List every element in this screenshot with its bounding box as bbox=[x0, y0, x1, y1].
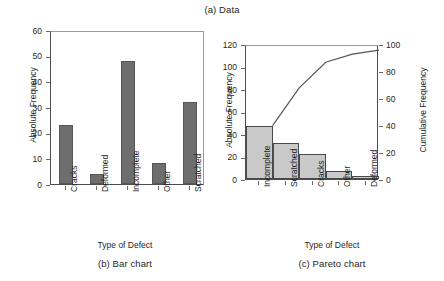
x-tick bbox=[258, 181, 259, 185]
bar-chart-caption: (b) Bar chart bbox=[30, 258, 220, 269]
y-tick bbox=[46, 108, 50, 109]
y-tick-label: 100 bbox=[209, 62, 237, 72]
x-tick-label-cracks: Cracks bbox=[69, 166, 79, 192]
x-tick-label-incomplete: Incomplete bbox=[131, 150, 141, 192]
x-tick-label-deformed: Deformed bbox=[100, 155, 110, 192]
y-tick-right bbox=[379, 180, 383, 181]
y-tick-label: 80 bbox=[209, 85, 237, 95]
x-tick-label-other: Other bbox=[342, 166, 352, 187]
y-tick bbox=[241, 68, 245, 69]
y-tick-label: 30 bbox=[14, 103, 42, 113]
y-tick-label: 120 bbox=[209, 40, 237, 50]
y-tick bbox=[46, 159, 50, 160]
x-tick-label-cracks: Cracks bbox=[316, 161, 326, 187]
y-tick-label: 0 bbox=[209, 175, 237, 185]
y-tick-label: 10 bbox=[14, 154, 42, 164]
y-tick-label: 0 bbox=[14, 180, 42, 190]
x-tick-label-scratched: Scratched bbox=[193, 154, 203, 192]
x-tick-label-other: Other bbox=[162, 171, 172, 192]
y-tick-label-right: 100 bbox=[386, 40, 400, 50]
y-tick-right bbox=[379, 45, 383, 46]
x-tick-label-incomplete: Incomplete bbox=[262, 145, 272, 187]
x-tick bbox=[338, 181, 339, 185]
x-tick-label-scratched: Scratched bbox=[289, 149, 299, 187]
pareto-chart-x-axis-title: Type of Defect bbox=[232, 240, 432, 250]
pareto-chart-caption: (c) Pareto chart bbox=[232, 258, 432, 269]
y-tick bbox=[241, 90, 245, 91]
x-tick bbox=[96, 186, 97, 190]
bar-chart-bars bbox=[51, 32, 203, 184]
x-tick bbox=[189, 186, 190, 190]
y-tick bbox=[46, 31, 50, 32]
y-tick bbox=[46, 57, 50, 58]
y-tick-right bbox=[379, 153, 383, 154]
y-tick-label-right: 20 bbox=[386, 148, 395, 158]
y-tick-right bbox=[379, 126, 383, 127]
y-tick bbox=[241, 135, 245, 136]
bar-chart-plot-area bbox=[50, 31, 204, 185]
y-tick bbox=[46, 82, 50, 83]
x-tick bbox=[312, 181, 313, 185]
y-tick-label-right: 80 bbox=[386, 67, 395, 77]
y-tick-label: 20 bbox=[14, 128, 42, 138]
y-tick bbox=[46, 185, 50, 186]
pareto-chart-y-axis-title-right: Cumulative Frequency bbox=[418, 50, 428, 170]
y-tick-label: 60 bbox=[14, 26, 42, 36]
x-tick bbox=[65, 186, 66, 190]
y-tick-label: 40 bbox=[14, 77, 42, 87]
y-tick-right bbox=[379, 72, 383, 73]
y-tick-label-right: 0 bbox=[386, 175, 391, 185]
x-tick bbox=[127, 186, 128, 190]
figure-container: (a) Data Absolute Frequency 010203040506… bbox=[0, 0, 444, 281]
y-tick bbox=[241, 45, 245, 46]
y-tick bbox=[46, 134, 50, 135]
bar-chart-x-axis-title: Type of Defect bbox=[30, 240, 220, 250]
x-tick bbox=[158, 186, 159, 190]
y-tick-label-right: 40 bbox=[386, 121, 395, 131]
y-tick-label-right: 60 bbox=[386, 94, 395, 104]
x-tick bbox=[285, 181, 286, 185]
y-tick-label: 40 bbox=[209, 130, 237, 140]
y-tick bbox=[241, 113, 245, 114]
x-tick bbox=[365, 181, 366, 185]
y-tick bbox=[241, 180, 245, 181]
figure-caption-a: (a) Data bbox=[0, 4, 444, 15]
y-tick-label: 20 bbox=[209, 152, 237, 162]
y-tick-label: 50 bbox=[14, 51, 42, 61]
y-tick-label: 60 bbox=[209, 107, 237, 117]
y-tick bbox=[241, 158, 245, 159]
y-tick-right bbox=[379, 99, 383, 100]
x-tick-label-deformed: Deformed bbox=[369, 150, 379, 187]
